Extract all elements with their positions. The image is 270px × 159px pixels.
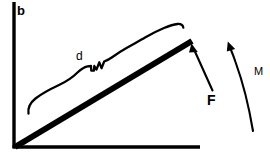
arrow-m-shaft [231,50,253,131]
chart-canvas [0,0,270,159]
panel-letter-label: b [17,4,25,17]
arrow-f-label: F [207,93,216,107]
curve-d-label: d [76,50,83,62]
thin-wiggly-curve [28,24,183,114]
annotation-arrow-f [189,44,213,91]
arrow-m-label: M [254,66,263,77]
axes-group [13,2,201,148]
series-d-curve [28,24,183,114]
arrow-f-shaft [195,51,213,91]
annotation-arrow-m [227,42,253,132]
figure-panel-b: b d F M [0,0,270,159]
arrow-m-head [227,42,235,52]
